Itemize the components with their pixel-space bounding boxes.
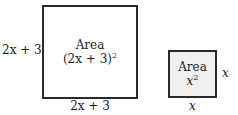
big-square-area-base: (2x + 3) (63, 52, 112, 66)
small-square-bottom-label-text: x (189, 99, 196, 113)
small-square-bottom-label: x (168, 100, 217, 113)
big-square-area-exponent: 2 (112, 51, 117, 60)
big-square-bottom-label: 2x + 3 (42, 100, 138, 113)
big-square-area-title: Area (42, 39, 138, 52)
small-square-right-label: x (222, 67, 229, 80)
big-square-left-label: 2x + 3 (2, 44, 42, 57)
small-square-area-exponent: 2 (193, 73, 198, 82)
big-square-area-expression: (2x + 3)2 (42, 53, 138, 66)
small-square-area-expression: x2 (168, 75, 217, 88)
small-square-right-label-text: x (222, 66, 229, 80)
